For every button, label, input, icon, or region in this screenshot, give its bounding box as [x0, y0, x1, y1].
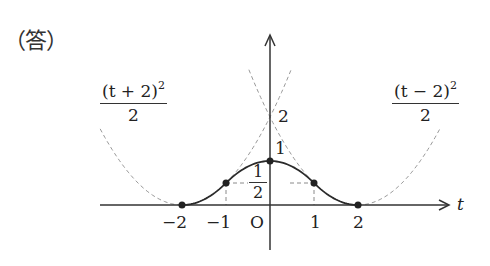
point-2 [355, 202, 362, 209]
y-label-half: 1 2 [249, 164, 267, 201]
left-exp: 2 [158, 79, 165, 92]
right-curve-label: (t − 2)2 2 [392, 80, 459, 124]
x-tick-2: 2 [353, 214, 364, 231]
x-tick-minus1: −1 [206, 214, 231, 231]
right-num: (t − 2) [394, 81, 450, 101]
x-tick-1: 1 [310, 214, 321, 231]
left-curve-label: (t + 2)2 2 [100, 80, 167, 124]
left-num: (t + 2) [102, 81, 158, 101]
origin-label: O [250, 214, 264, 231]
y-label-2: 2 [278, 108, 289, 125]
point-peak [267, 158, 274, 165]
half-den: 2 [249, 183, 267, 201]
t-axis-label: t [457, 196, 464, 213]
left-den: 2 [100, 104, 167, 124]
y-label-1: 1 [275, 140, 286, 157]
x-tick-minus2: −2 [162, 214, 187, 231]
right-exp: 2 [450, 79, 457, 92]
right-den: 2 [392, 104, 459, 124]
point-minus2 [179, 202, 186, 209]
point-1 [311, 180, 318, 187]
graph-canvas [0, 0, 490, 266]
point-minus1 [223, 180, 230, 187]
half-num: 1 [249, 164, 267, 183]
